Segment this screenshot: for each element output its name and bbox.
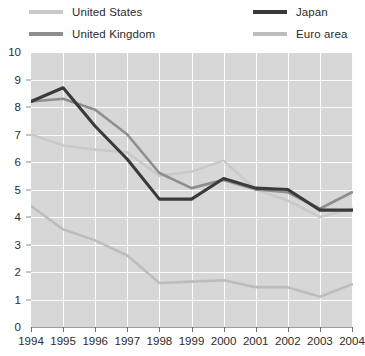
- legend-item-euro-area: Euro area: [253, 25, 347, 43]
- x-tick-label: 1999: [179, 335, 205, 347]
- legend-item-united-states: United States: [29, 3, 142, 21]
- legend-swatch-united-states: [29, 10, 63, 14]
- series-lines: [31, 52, 353, 327]
- chart-legend: United States United Kingdom Japan Euro …: [0, 0, 361, 46]
- legend-swatch-japan: [253, 10, 287, 14]
- legend-item-united-kingdom: United Kingdom: [29, 25, 155, 43]
- y-tick-label: 9: [15, 74, 21, 86]
- series-line-united-kingdom: [31, 99, 352, 209]
- x-tick-label: 2003: [307, 335, 333, 347]
- x-tick-mark: [256, 327, 257, 332]
- legend-swatch-euro-area: [253, 32, 287, 36]
- y-tick-label: 0: [15, 321, 21, 333]
- y-tick-label: 6: [15, 156, 21, 168]
- series-line-euro-area: [31, 206, 352, 297]
- legend-swatch-united-kingdom: [29, 32, 63, 36]
- legend-label-japan: Japan: [296, 6, 328, 18]
- y-tick-label: 3: [15, 239, 21, 251]
- x-tick-mark: [288, 327, 289, 332]
- x-tick-mark: [352, 327, 353, 332]
- x-tick-label: 2002: [275, 335, 301, 347]
- x-tick-label: 1995: [50, 335, 76, 347]
- y-tick-label: 4: [15, 211, 21, 223]
- legend-label-united-states: United States: [72, 6, 142, 18]
- y-tick-label: 1: [15, 294, 21, 306]
- y-tick-label: 10: [8, 46, 21, 58]
- x-tick-label: 1997: [115, 335, 141, 347]
- x-axis: 1994199519961997199819992000200120022003…: [31, 327, 353, 356]
- y-tick-label: 7: [15, 129, 21, 141]
- x-tick-mark: [159, 327, 160, 332]
- x-tick-mark: [320, 327, 321, 332]
- y-tick-label: 5: [15, 184, 21, 196]
- x-tick-mark: [224, 327, 225, 332]
- x-tick-mark: [95, 327, 96, 332]
- y-tick-label: 2: [15, 266, 21, 278]
- y-tick-label: 8: [15, 101, 21, 113]
- x-tick-label: 1998: [147, 335, 173, 347]
- x-tick-mark: [63, 327, 64, 332]
- y-axis: 012345678910: [0, 52, 31, 327]
- x-tick-label: 1994: [18, 335, 44, 347]
- series-line-japan: [31, 88, 352, 210]
- x-tick-label: 2000: [211, 335, 237, 347]
- x-tick-label: 1996: [82, 335, 108, 347]
- x-tick-mark: [31, 327, 32, 332]
- legend-label-united-kingdom: United Kingdom: [72, 28, 155, 40]
- x-tick-mark: [192, 327, 193, 332]
- legend-item-japan: Japan: [253, 3, 328, 21]
- x-tick-label: 2001: [243, 335, 269, 347]
- series-line-united-states: [31, 135, 352, 218]
- x-tick-mark: [127, 327, 128, 332]
- plot-area: [31, 52, 353, 327]
- legend-label-euro-area: Euro area: [296, 28, 347, 40]
- x-tick-label: 2004: [339, 335, 365, 347]
